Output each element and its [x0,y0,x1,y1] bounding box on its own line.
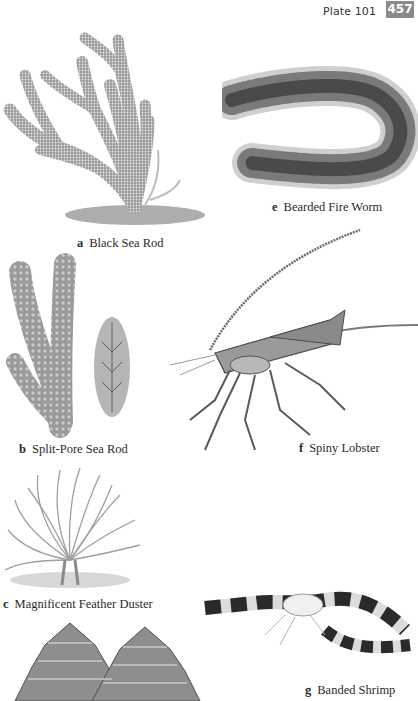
caption-name: Black Sea Rod [89,236,163,250]
caption-letter: c [3,597,9,611]
banded-shrimp-illustration [195,575,418,675]
caption-letter: a [77,236,83,250]
page-number-badge: 457 [386,1,414,18]
caption-name: Split-Pore Sea Rod [32,442,128,456]
plate-label: Plate 101 [323,5,376,18]
magnificent-feather-duster-illustration [0,460,160,595]
page-header: Plate 101 457 [0,0,418,22]
black-sea-rod-illustration [0,30,210,230]
caption-name: Banded Shrimp [317,683,395,697]
caption-a: aBlack Sea Rod [77,236,164,251]
split-pore-sea-rod-illustration [0,252,150,442]
caption-letter: e [272,200,278,214]
caption-f: fSpiny Lobster [299,441,380,456]
caption-name: Magnificent Feather Duster [15,597,153,611]
caption-name: Bearded Fire Worm [284,200,383,214]
caption-g: gBanded Shrimp [305,683,395,698]
caption-letter: f [299,441,303,455]
caption-b: bSplit-Pore Sea Rod [19,442,128,457]
bearded-fire-worm-illustration [222,55,418,190]
caption-c: cMagnificent Feather Duster [3,597,153,612]
caption-name: Spiny Lobster [309,441,379,455]
caption-letter: g [305,683,311,697]
caption-e: eBearded Fire Worm [272,200,382,215]
christmas-tree-worm-illustration [0,615,210,701]
caption-letter: b [19,442,26,456]
spiny-lobster-illustration [170,225,418,465]
